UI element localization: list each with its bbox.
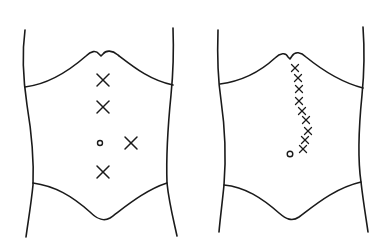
right-torso-panel — [218, 27, 368, 232]
x-mark-icon — [296, 98, 303, 105]
diagram-canvas — [0, 0, 377, 251]
right-torso-marks — [292, 65, 312, 153]
right-torso-right-flank — [359, 27, 368, 232]
x-mark-icon — [97, 74, 109, 86]
x-mark-icon — [125, 137, 137, 149]
x-mark-icon — [302, 137, 309, 144]
left-torso-right-flank — [167, 28, 177, 236]
left-torso-marks — [97, 74, 137, 178]
anatomical-diagram — [0, 0, 377, 251]
x-mark-icon — [292, 65, 299, 72]
right-torso-left-flank — [218, 30, 226, 232]
x-mark-icon — [303, 117, 310, 124]
right-torso-pelvic-line — [224, 182, 361, 220]
x-mark-icon — [295, 75, 302, 82]
x-mark-icon — [97, 166, 109, 178]
left-torso-pelvic-line — [33, 183, 167, 220]
x-mark-icon — [305, 128, 312, 135]
right-torso-rib-margin — [220, 53, 363, 88]
left-torso-panel — [23, 28, 177, 237]
right-umbilicus-icon — [287, 151, 293, 157]
x-mark-icon — [296, 86, 303, 93]
left-umbilicus-icon — [98, 141, 103, 146]
x-mark-icon — [97, 101, 109, 113]
x-mark-icon — [300, 146, 307, 153]
left-torso-left-flank — [23, 30, 33, 237]
left-torso-rib-margin — [25, 51, 173, 87]
x-mark-icon — [299, 108, 306, 115]
